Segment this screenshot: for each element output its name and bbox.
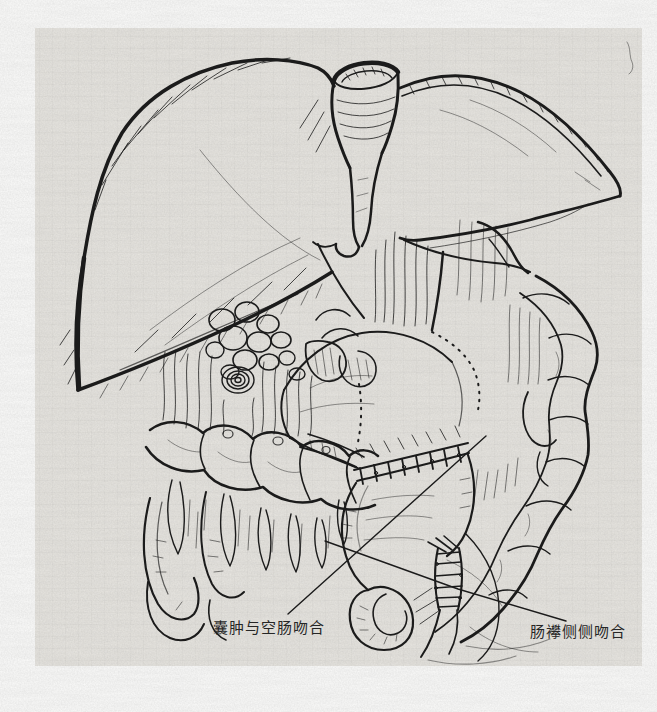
label-cyst-jejunum-anastomosis: 囊肿与空肠吻合 <box>213 620 325 636</box>
label-side-to-side-anastomosis: 肠襻侧侧吻合 <box>530 624 626 640</box>
figure-canvas: 囊肿与空肠吻合 肠襻侧侧吻合 <box>0 0 657 712</box>
scanned-page: 囊肿与空肠吻合 肠襻侧侧吻合 <box>0 0 657 712</box>
